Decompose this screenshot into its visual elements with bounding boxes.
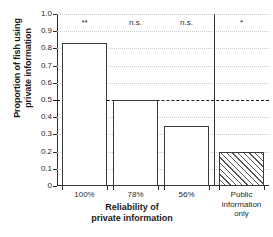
bar-78- (113, 100, 158, 186)
x-tick-label: Publicinformationonly (211, 190, 272, 219)
group-separator-line (214, 14, 215, 186)
y-tick-label: 1.0 (30, 10, 52, 18)
y-tick-label: 0.7 (30, 62, 52, 70)
y-tick-label: 0.6 (30, 79, 52, 87)
y-tick-mark (53, 83, 57, 84)
y-axis-title-line-1: Proportion of fish using (12, 18, 23, 118)
y-tick-mark (53, 117, 57, 118)
significance-label: * (219, 18, 264, 27)
y-tick-mark (53, 48, 57, 49)
plot-area: **n.s.n.s.* (57, 14, 269, 186)
bar-chart-figure: Proportion of fish using private informa… (0, 0, 273, 237)
y-tick-label: 0.3 (30, 130, 52, 138)
y-tick-label: 0 (30, 182, 52, 190)
y-tick-mark (53, 100, 57, 101)
y-tick-label: 0.2 (30, 148, 52, 156)
y-tick-label: 0.9 (30, 27, 52, 35)
significance-label: n.s. (164, 18, 209, 27)
y-tick-mark (53, 186, 57, 187)
bar-public-information-only (219, 152, 264, 186)
gridline (57, 14, 269, 15)
significance-label: ** (62, 18, 107, 27)
y-tick-label: 0.5 (30, 96, 52, 104)
x-tick-label-line: Public (211, 190, 272, 200)
x-axis-title-line-1: Reliability of (57, 202, 207, 213)
y-tick-label: 0.1 (30, 165, 52, 173)
y-tick-label: 0.8 (30, 44, 52, 52)
bar-56- (164, 126, 209, 186)
y-tick-label: 0.4 (30, 113, 52, 121)
y-tick-mark (53, 134, 57, 135)
y-tick-mark (53, 169, 57, 170)
bar-100- (62, 43, 107, 186)
y-tick-mark (53, 31, 57, 32)
y-tick-mark (53, 66, 57, 67)
significance-label: n.s. (113, 18, 158, 27)
x-tick-label-line: information (211, 200, 272, 210)
x-axis-title-line-2: private information (57, 213, 207, 224)
x-tick-label: 56% (156, 190, 217, 200)
x-tick-label-line: only (211, 209, 272, 219)
y-tick-mark (53, 152, 57, 153)
x-tick-label-line: 56% (156, 190, 217, 200)
y-tick-mark (53, 14, 57, 15)
gridline (57, 31, 269, 32)
x-axis-title: Reliability of private information (57, 202, 207, 224)
y-axis-tick-labels: 1.00.90.80.70.60.50.40.30.20.10 (30, 14, 52, 186)
